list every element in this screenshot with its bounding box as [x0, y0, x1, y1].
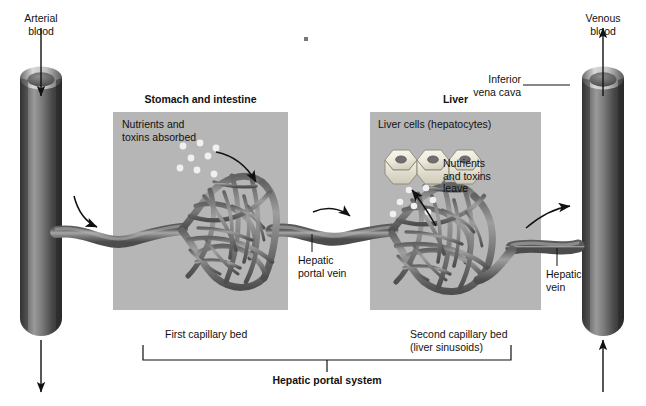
liver-cells-label: Liver cells (hepatocytes) — [378, 118, 528, 131]
liver-title: Liver — [370, 93, 541, 106]
flow-arrow-into-gut — [74, 196, 97, 227]
stomach-intestine-title: Stomach and intestine — [113, 93, 288, 106]
hepatic-portal-vein-label: Hepatic portal vein — [298, 254, 378, 279]
flow-arrow-to-vena-cava — [526, 206, 570, 228]
flow-arrow-portal — [313, 209, 350, 216]
first-capillary-bed-label: First capillary bed — [165, 328, 295, 341]
arterial-vessel — [20, 67, 62, 337]
hepatic-vein-vessel — [512, 243, 578, 248]
nutrient-particles-absorbed — [177, 140, 220, 178]
hepatocyte-cell — [385, 150, 417, 184]
first-capillary-bed — [182, 176, 276, 287]
arterial-blood-label: Arterial blood — [6, 12, 76, 37]
second-capillary-bed — [392, 180, 512, 292]
hepatic-vein-label: Hepatic vein — [546, 268, 616, 293]
hepatic-portal-vein-vessel — [272, 227, 392, 239]
figure-canvas: Arterial blood Venous blood Inferior ven… — [0, 0, 646, 406]
nutrients-absorbed-label: Nutrients and toxins absorbed — [122, 118, 242, 143]
artery-to-gut — [56, 226, 182, 242]
inferior-vena-cava-vessel — [582, 67, 624, 337]
hepatic-portal-system-label: Hepatic portal system — [242, 374, 412, 387]
nutrients-leave-label: Nutrients and toxins leave — [443, 157, 513, 195]
diagram-graphics — [0, 0, 646, 406]
venous-blood-label: Venous blood — [568, 12, 638, 37]
second-capillary-bed-label: Second capillary bed (liver sinusoids) — [410, 328, 540, 353]
